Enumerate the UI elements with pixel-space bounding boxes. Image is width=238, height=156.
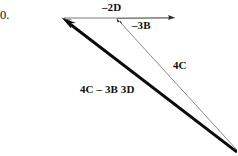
- vector-canvas: [0, 0, 237, 156]
- vector-label-resultant: 4C – 3B 3D: [80, 84, 134, 95]
- problem-number: 0.: [0, 9, 10, 22]
- vector-label-neg2d: –2D: [102, 2, 121, 13]
- vector-label-4c: 4C: [173, 60, 187, 71]
- vector-label-neg3b: –3B: [132, 20, 151, 31]
- vector-line-4c: [120, 22, 238, 151]
- vector-diagram-figure: 0. –2D –3B 4C 4C – 3B 3D: [0, 0, 237, 156]
- arrowhead-neg3b-right: [168, 15, 174, 20]
